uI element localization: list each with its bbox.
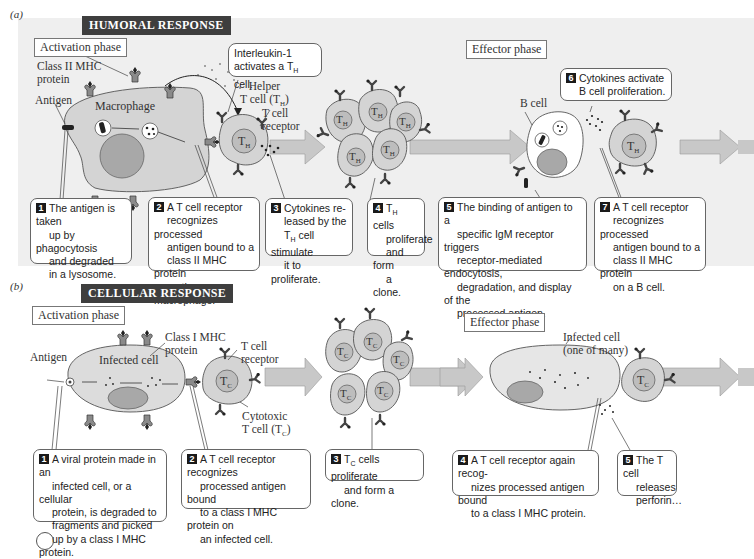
th-clone-label-4: TH (349, 150, 361, 165)
th-clone-label-1: TH (336, 113, 348, 128)
cytotoxic-t-cell-label: Cytotoxic T cell (TC) (242, 410, 291, 441)
step-6-callout: 6Cytokines activate B cell proliferation… (560, 68, 672, 101)
step-2-callout: 2A T cell receptor recognizes processed … (148, 197, 260, 271)
t-cell-receptor-label-a: T cell receptor (262, 107, 300, 133)
step-b2-callout: 2A T cell receptor recognizes processed … (181, 449, 311, 509)
step-number-badge: 7 (600, 202, 610, 212)
activation-phase-label-b: Activation phase (32, 306, 125, 325)
antigen-label-b: Antigen (30, 351, 67, 364)
t-cell-receptor-label-b: T cell receptor (241, 340, 279, 366)
step-b1-callout: 1A viral protein made in an infected cel… (33, 449, 167, 522)
tc-effector-label: TC (637, 373, 649, 389)
th-label: TH (238, 134, 250, 150)
step-number-badge: 1 (36, 203, 46, 213)
step-1-callout: 1The antigen is taken up by phagocytosis… (30, 198, 132, 264)
step-5-callout: 5The binding of antigen to a specific Ig… (438, 197, 587, 271)
class-i-mhc-label: Class I MHC protein (165, 331, 226, 357)
cellular-response-title: CELLULAR RESPONSE (81, 284, 233, 303)
step-number-badge: 6 (566, 73, 576, 83)
step-b3-callout: 3TC cells proliferate and form a clone. (325, 449, 424, 481)
step-number-badge: 4 (373, 203, 383, 213)
th-clone-label-5: TH (383, 143, 395, 158)
th-clone-label-3: TH (399, 115, 411, 130)
b-cell-label: B cell (520, 97, 547, 110)
step-number-badge: 5 (623, 455, 633, 465)
macrophage-label: Macrophage (95, 100, 155, 113)
panel-b-letter: (b) (10, 280, 23, 292)
step-number-badge: 3 (271, 203, 281, 213)
step-b4-callout: 4A T cell receptor again recog- nizes pr… (452, 450, 599, 496)
tc-clone-label-5: TC (377, 384, 388, 399)
interleukin-callout: Interleukin-1 activates a TH cell. (228, 43, 322, 77)
infected-cell-many-label: Infected cell (one of many) (563, 331, 628, 357)
tc-clone-label-2: TC (366, 335, 377, 350)
antigen-label-a: Antigen (35, 94, 72, 107)
tc-clone-label-4: TC (340, 387, 351, 402)
tc-clone-label-1: TC (337, 345, 348, 360)
effector-phase-label-b: Effector phase (464, 313, 545, 332)
step-number-badge: 3 (331, 454, 341, 464)
step-b5-callout: 5The T cell releases perforin… (617, 450, 677, 496)
panel-a-letter: (a) (10, 8, 23, 20)
activation-phase-label-a: Activation phase (34, 38, 127, 57)
th-clone-label-2: TH (371, 105, 383, 120)
macrophage-cell (62, 67, 220, 211)
tc-label: TC (220, 374, 232, 390)
th-effector-label: TH (627, 139, 639, 155)
tc-clone-label-3: TC (393, 353, 404, 368)
step-4-callout: 4TH cells proliferate and form a clone. (367, 198, 425, 256)
step-number-badge: 5 (444, 202, 454, 212)
humoral-response-title: HUMORAL RESPONSE (82, 16, 231, 35)
effector-phase-label-a: Effector phase (466, 40, 547, 59)
th-clone-cluster (316, 79, 431, 188)
cropped-circle-marker (36, 532, 54, 550)
step-number-badge: 1 (39, 454, 49, 464)
class-ii-mhc-label: Class II MHC protein (37, 60, 102, 86)
step-7-callout: 7A T cell receptor recognizes processed … (594, 197, 706, 271)
infected-cell-label: Infected cell (99, 354, 159, 367)
step-3-callout: 3Cytokines re- leased by the TH cell sti… (265, 198, 353, 256)
step-number-badge: 2 (187, 454, 197, 464)
step-number-badge: 4 (458, 455, 468, 465)
step-number-badge: 2 (154, 202, 164, 212)
